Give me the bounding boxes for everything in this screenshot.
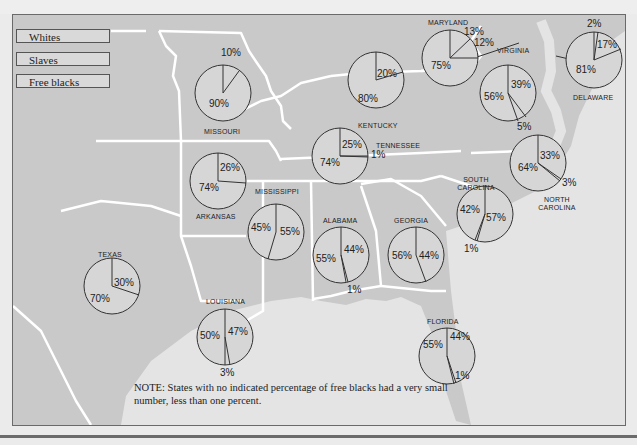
south-carolina-label-line1: SOUTH bbox=[463, 176, 489, 183]
maryland-pct-free: 12% bbox=[474, 37, 494, 48]
alabama-pct-free: 1% bbox=[347, 284, 361, 295]
north-carolina-pct-free: 3% bbox=[562, 177, 576, 188]
virginia-pct-free: 5% bbox=[517, 121, 531, 132]
missouri-pct-slaves: 10% bbox=[221, 47, 241, 58]
north-carolina-label: NORTHCAROLINA bbox=[532, 196, 582, 212]
alabama-pct-whites: 55% bbox=[316, 253, 336, 264]
south-carolina-label-line2: CAROLINA bbox=[457, 184, 494, 191]
louisiana-pct-whites: 50% bbox=[200, 330, 220, 341]
georgia-pct-slaves: 44% bbox=[419, 250, 439, 261]
tennessee-label: TENNESSEE bbox=[376, 142, 420, 150]
maryland-pct-slaves: 13% bbox=[464, 26, 484, 37]
legend-free-blacks: Free blacks bbox=[16, 74, 110, 88]
tennessee-pct-whites: 74% bbox=[320, 157, 340, 168]
north-carolina-pct-slaves: 33% bbox=[540, 150, 560, 161]
missouri-pct-whites: 90% bbox=[209, 98, 229, 109]
tennessee-pct-slaves: 25% bbox=[342, 139, 362, 150]
legend-whites: Whites bbox=[16, 29, 110, 43]
north-carolina-pct-whites: 64% bbox=[518, 162, 538, 173]
virginia-pct-slaves: 39% bbox=[511, 79, 531, 90]
top-strip bbox=[0, 0, 637, 14]
arkansas-label: ARKANSAS bbox=[196, 213, 236, 221]
louisiana-pct-slaves: 47% bbox=[228, 326, 248, 337]
florida-pct-free: 1% bbox=[455, 370, 469, 381]
texas-label: TEXAS bbox=[98, 251, 122, 259]
georgia-label: GEORGIA bbox=[394, 217, 428, 225]
mississippi-pct-whites: 45% bbox=[251, 222, 271, 233]
mississippi-label: MISSISSIPPI bbox=[255, 188, 299, 196]
maryland-label: MARYLAND bbox=[428, 19, 468, 27]
footnote: NOTE: States with no indicated percentag… bbox=[134, 381, 464, 407]
delaware-pct-free: 17% bbox=[597, 39, 617, 50]
louisiana-pct-free: 3% bbox=[220, 367, 234, 378]
arkansas-pct-slaves: 26% bbox=[220, 162, 240, 173]
texas-pct-slaves: 30% bbox=[114, 277, 134, 288]
south-carolina-pct-free: 1% bbox=[464, 243, 478, 254]
kentucky-label: KENTUCKY bbox=[358, 122, 398, 130]
georgia-pct-whites: 56% bbox=[392, 250, 412, 261]
south-carolina-pct-whites: 42% bbox=[460, 204, 480, 215]
virginia-label: VIRGINIA bbox=[497, 47, 529, 55]
delaware-pct-whites: 81% bbox=[576, 64, 596, 75]
bottom-rule bbox=[0, 435, 637, 438]
tennessee-pct-free: 1% bbox=[371, 149, 385, 160]
delaware-pct-slaves: 2% bbox=[587, 18, 601, 29]
missouri-label: MISSOURI bbox=[204, 128, 240, 136]
florida-pct-slaves: 44% bbox=[450, 331, 470, 342]
louisiana-label: LOUISIANA bbox=[206, 298, 245, 306]
delaware-label: DELAWARE bbox=[573, 94, 613, 102]
florida-label: FLORIDA bbox=[427, 318, 459, 326]
north-carolina-label-line1: NORTH bbox=[544, 196, 570, 203]
mississippi-pct-slaves: 55% bbox=[280, 226, 300, 237]
legend-slaves: Slaves bbox=[16, 52, 110, 66]
florida-pct-whites: 55% bbox=[423, 339, 443, 350]
alabama-label: ALABAMA bbox=[323, 217, 357, 225]
arkansas-pct-whites: 74% bbox=[199, 182, 219, 193]
texas-pct-whites: 70% bbox=[90, 293, 110, 304]
south-carolina-label: SOUTHCAROLINA bbox=[452, 176, 500, 192]
virginia-pct-whites: 56% bbox=[484, 91, 504, 102]
kentucky-pct-slaves: 20% bbox=[377, 68, 397, 79]
alabama-pct-slaves: 44% bbox=[344, 244, 364, 255]
north-carolina-label-line2: CAROLINA bbox=[538, 204, 575, 211]
kentucky-pct-whites: 80% bbox=[358, 93, 378, 104]
maryland-pct-whites: 75% bbox=[431, 60, 451, 71]
south-carolina-pct-slaves: 57% bbox=[486, 212, 506, 223]
